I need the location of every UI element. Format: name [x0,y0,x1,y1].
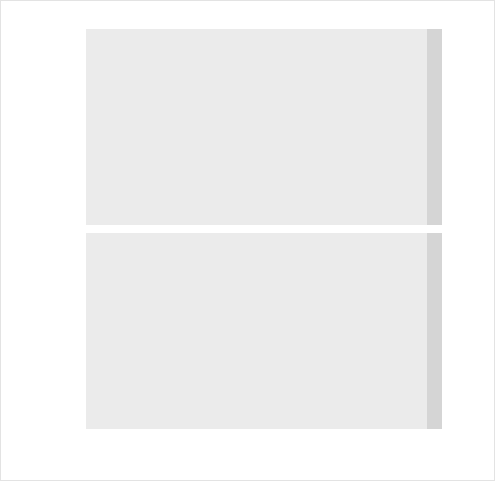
panel-perplexity [86,233,427,429]
coherence-series [86,29,427,225]
facet-strip-coherence [427,29,442,225]
facet-strip-perplexity [427,233,442,429]
y-axis-ticks-coherence [39,29,81,225]
x-axis-ticks [86,429,427,447]
y-axis-ticks-perplexity [39,233,81,429]
perplexity-series [86,233,427,429]
chart-figure [0,0,495,481]
panel-coherence [86,29,427,225]
